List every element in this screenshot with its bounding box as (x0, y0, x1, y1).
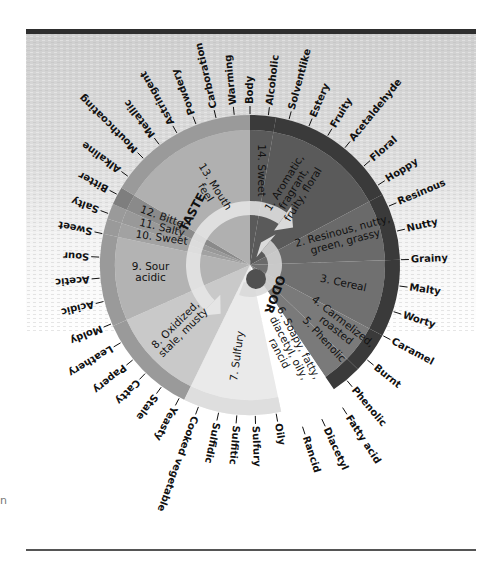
class-label-sweet-14: 14. Sweet (256, 144, 268, 196)
term-tick (126, 360, 132, 365)
class-label-line: acidic (135, 271, 166, 283)
term-tick (343, 408, 347, 415)
term-tick (196, 407, 199, 415)
term-label: Burnt (372, 362, 404, 391)
term-label: Catty (113, 377, 142, 407)
term-label: Body (244, 75, 255, 104)
term-label: Yeasty (152, 404, 180, 443)
term-label: Grainy (411, 252, 449, 264)
sector-outer-ring (250, 115, 276, 132)
bottom-frame (26, 549, 476, 551)
term-label: Sulfury (251, 426, 263, 468)
term-tick (303, 427, 306, 435)
term-tick (140, 374, 146, 380)
term-tick (114, 343, 121, 347)
term-label: Leathery (66, 344, 115, 379)
term-tick (383, 336, 390, 340)
term-label: Stale (134, 392, 160, 422)
term-label: Sulfidic (203, 421, 222, 464)
term-tick (322, 419, 325, 426)
flavor-wheel-figure: n 14. Sweet1. Aromatic,fragrant,fruity, … (0, 0, 501, 571)
class-label-line: 14. Sweet (256, 144, 268, 196)
term-tick (367, 360, 373, 365)
wheel-hub (246, 269, 266, 289)
term-label: Caramel (390, 335, 436, 366)
term-tick (347, 381, 352, 387)
term-label: Oily (273, 423, 288, 447)
term-tick (236, 415, 237, 423)
term-tick (276, 414, 277, 422)
term-label: Sour (63, 250, 90, 262)
term-tick (217, 413, 219, 421)
flavor-wheel: 14. Sweet1. Aromatic,fragrant,fruity, fl… (0, 0, 501, 571)
term-tick (175, 398, 179, 405)
class-label-sour-9: 9. Souracidic (132, 260, 170, 283)
term-label: Diacetyl (322, 426, 351, 472)
term-tick (157, 387, 162, 393)
term-label: Sulfitic (228, 425, 242, 465)
term-tick (92, 278, 100, 279)
top-frame (26, 29, 476, 34)
term-label: Rancid (301, 434, 323, 474)
